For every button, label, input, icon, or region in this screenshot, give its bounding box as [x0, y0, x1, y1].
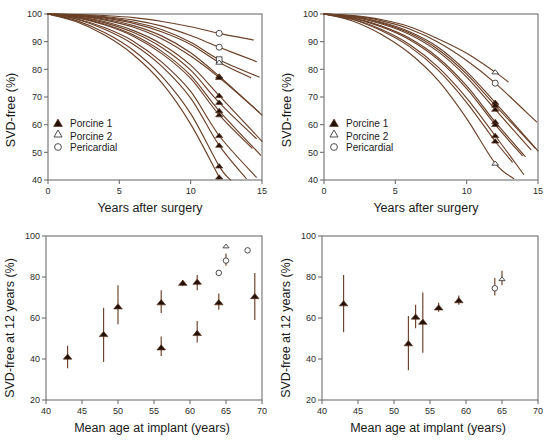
- legend-filled-triangle-icon: [54, 119, 63, 127]
- data-point-filled-triangle: [492, 133, 499, 137]
- data-point-filled-triangle: [216, 143, 223, 147]
- legend-top-right: Porcine 1 Porcine 2 Pericardial: [330, 118, 394, 153]
- point-group: [339, 277, 505, 346]
- legend-open-circle-icon: [331, 144, 338, 151]
- y-tick-label: 90: [32, 37, 42, 47]
- data-point-filled-triangle: [63, 354, 72, 359]
- x-axis-title-top-right: Years after surgery: [373, 201, 479, 215]
- data-point-filled-triangle: [434, 305, 443, 310]
- y-tick-label: 70: [308, 92, 318, 102]
- panel-bottom-left-svg: 2040608010040455055606570 SVD-free at 12…: [0, 220, 276, 441]
- legend-label-porcine2: Porcine 2: [346, 131, 389, 142]
- legend-filled-triangle-icon: [330, 119, 339, 127]
- data-point-filled-triangle: [215, 300, 224, 305]
- legend-open-triangle-icon: [330, 130, 338, 137]
- x-tick-label: 45: [353, 406, 363, 416]
- legend-label-pericardial: Pericardial: [346, 142, 393, 153]
- data-point-open-circle: [245, 248, 251, 254]
- x-tick-label: 55: [425, 406, 435, 416]
- data-point-filled-triangle: [339, 301, 348, 306]
- x-tick-label: 70: [533, 406, 543, 416]
- plot-frame: [46, 236, 262, 400]
- data-point-filled-triangle: [216, 175, 223, 179]
- y-tick-label: 100: [303, 9, 318, 19]
- data-point-open-circle: [223, 258, 229, 264]
- x-tick-label: 5: [117, 186, 122, 196]
- legend-label-porcine2: Porcine 2: [70, 131, 113, 142]
- x-tick-label: 60: [461, 406, 471, 416]
- survival-curve: [324, 14, 508, 82]
- data-point-filled-triangle: [157, 345, 166, 350]
- x-tick-label: 0: [45, 186, 50, 196]
- y-tick-label: 60: [30, 313, 40, 323]
- data-point-filled-triangle: [216, 133, 223, 137]
- data-point-open-circle: [216, 30, 222, 36]
- x-tick-label: 40: [41, 406, 51, 416]
- x-tick-label: 10: [462, 186, 472, 196]
- legend-label-porcine1: Porcine 1: [346, 118, 389, 129]
- y-tick-label: 60: [306, 313, 316, 323]
- y-tick-label: 50: [308, 148, 318, 158]
- x-axis-title-top-left: Years after surgery: [97, 201, 203, 215]
- panel-top-right: 405060708090100051015 SVD-free (%) Years…: [276, 0, 552, 220]
- panel-top-left-svg: 405060708090100051015 SVD-free (%) Years…: [0, 0, 276, 220]
- data-point-open-circle: [216, 44, 222, 50]
- data-point-open-triangle: [499, 277, 505, 281]
- y-tick-label: 60: [308, 120, 318, 130]
- data-point-open-circle: [492, 80, 498, 86]
- y-tick-label: 60: [32, 120, 42, 130]
- x-tick-label: 50: [113, 406, 123, 416]
- curve-group: [48, 14, 262, 180]
- legend-open-circle-icon: [55, 144, 62, 151]
- figure-container: 405060708090100051015 SVD-free (%) Years…: [0, 0, 552, 441]
- y-tick-label: 40: [306, 354, 316, 364]
- legend-label-porcine1: Porcine 1: [70, 118, 113, 129]
- plot-area-bottom-left: 2040608010040455055606570: [25, 231, 267, 416]
- y-tick-label: 20: [30, 395, 40, 405]
- data-point-filled-triangle: [114, 304, 123, 309]
- y-tick-label: 70: [32, 92, 42, 102]
- y-tick-label: 40: [32, 175, 42, 185]
- y-axis-title-bottom-left: SVD-free at 12 years (%): [3, 258, 17, 398]
- panel-top-left: 405060708090100051015 SVD-free (%) Years…: [0, 0, 276, 220]
- x-axis-title-bottom-right: Mean age at implant (years): [350, 421, 506, 435]
- panel-bottom-right: 2040608010040455055606570 SVD-free at 12…: [276, 220, 552, 441]
- plot-area-top-left: 405060708090100051015: [27, 9, 267, 196]
- plot-area-top-right: 405060708090100051015: [303, 9, 543, 196]
- errorbar-group: [68, 253, 255, 368]
- x-tick-label: 50: [389, 406, 399, 416]
- x-tick-label: 65: [497, 406, 507, 416]
- data-point-filled-triangle: [193, 330, 202, 335]
- data-point-open-circle: [216, 270, 222, 276]
- plot-frame: [48, 14, 262, 180]
- data-point-filled-triangle: [419, 319, 428, 324]
- x-axis-title-bottom-left: Mean age at implant (years): [74, 421, 230, 435]
- endpoint-marker-group: [492, 70, 499, 166]
- plot-area-bottom-right: 2040608010040455055606570: [301, 231, 543, 416]
- data-point-filled-triangle: [179, 280, 188, 285]
- curve-group: [324, 14, 538, 179]
- data-point-filled-triangle: [99, 331, 108, 336]
- y-tick-label: 20: [306, 395, 316, 405]
- x-tick-label: 55: [149, 406, 159, 416]
- data-point-filled-triangle: [411, 314, 420, 319]
- y-tick-label: 80: [30, 272, 40, 282]
- survival-curve: [324, 14, 537, 122]
- y-tick-label: 80: [308, 65, 318, 75]
- y-tick-label: 80: [32, 65, 42, 75]
- legend-label-pericardial: Pericardial: [70, 142, 117, 153]
- y-tick-label: 100: [27, 9, 42, 19]
- data-point-filled-triangle: [251, 293, 260, 298]
- plot-frame: [322, 236, 538, 400]
- x-tick-label: 70: [257, 406, 267, 416]
- y-axis-title-top-right: SVD-free (%): [280, 73, 294, 147]
- x-tick-label: 15: [257, 186, 267, 196]
- data-point-filled-triangle: [455, 298, 464, 303]
- x-tick-label: 45: [77, 406, 87, 416]
- y-tick-label: 100: [301, 231, 316, 241]
- data-point-filled-triangle: [404, 341, 413, 346]
- data-point-open-circle: [492, 286, 498, 292]
- x-tick-label: 60: [185, 406, 195, 416]
- x-tick-label: 15: [533, 186, 543, 196]
- data-point-open-triangle: [492, 161, 499, 165]
